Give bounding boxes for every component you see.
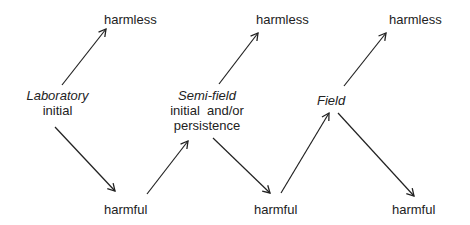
- semifield-line3: persistence: [152, 118, 262, 133]
- semifield-title: Semi-field: [152, 88, 262, 103]
- laboratory-title: Laboratory: [15, 88, 100, 103]
- semifield-line2: initial and/or: [152, 103, 262, 118]
- arrow-field-to-harmful: [338, 113, 414, 196]
- arrow-lab-to-harmful: [55, 127, 115, 191]
- lab-harmful-label: harmful: [104, 202, 147, 217]
- arrow-semifield-to-harmless: [219, 33, 258, 84]
- semi-harmful-label: harmful: [254, 202, 297, 217]
- field-node: Field: [317, 93, 345, 108]
- semi-harmless-label: harmless: [256, 12, 309, 27]
- arrow-harmful-to-field: [281, 113, 329, 193]
- arrow-field-to-harmless: [344, 33, 386, 86]
- field-harmless-label: harmless: [389, 12, 442, 27]
- laboratory-node: Laboratory initial: [15, 88, 100, 118]
- arrow-lab-to-harmless: [62, 29, 106, 85]
- lab-harmless-label: harmless: [104, 12, 157, 27]
- laboratory-subtitle: initial: [15, 103, 100, 118]
- arrow-harmful-to-semifield: [147, 141, 188, 194]
- arrow-semifield-to-harmful: [213, 138, 270, 193]
- flow-diagram: harmless Laboratory initial harmful harm…: [0, 0, 470, 225]
- field-harmful-label: harmful: [392, 202, 435, 217]
- semifield-node: Semi-field initial and/or persistence: [152, 88, 262, 133]
